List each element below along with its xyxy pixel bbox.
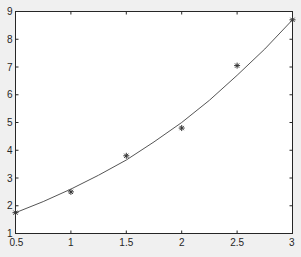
axes-area bbox=[16, 12, 293, 234]
y-tick-label: 9 bbox=[7, 6, 13, 17]
y-tick-label: 5 bbox=[7, 117, 13, 128]
data-point-marker bbox=[68, 189, 74, 195]
x-tick-label: 1.5 bbox=[119, 237, 133, 248]
x-tick-label: 2 bbox=[179, 237, 185, 248]
chart: 0.511.522.53123456789 bbox=[0, 0, 301, 257]
y-tick-label: 6 bbox=[7, 89, 13, 100]
data-point-marker bbox=[13, 210, 19, 216]
y-tick-label: 7 bbox=[7, 62, 13, 73]
x-tick-label: 2.5 bbox=[230, 237, 244, 248]
y-tick-label: 1 bbox=[7, 228, 13, 239]
x-tick-label: 1 bbox=[68, 237, 74, 248]
y-tick-label: 3 bbox=[7, 173, 13, 184]
y-tick-label: 8 bbox=[7, 34, 13, 45]
y-tick-label: 4 bbox=[7, 145, 13, 156]
x-tick-label: 3 bbox=[289, 237, 295, 248]
y-tick-label: 2 bbox=[7, 200, 13, 211]
